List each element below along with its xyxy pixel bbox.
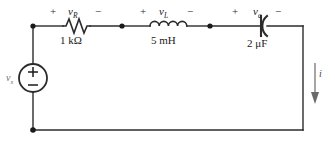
node-dot-top-left xyxy=(30,23,35,28)
resistor-voltage-label: vR xyxy=(68,6,77,20)
capacitor-value: 2 μF xyxy=(247,38,267,49)
inductor-value: 5 mH xyxy=(151,35,176,46)
current-label: i xyxy=(319,69,322,79)
inductor-symbol xyxy=(150,21,187,26)
inductor-voltage-label: vL xyxy=(159,6,168,20)
resistor-value: 1 kΩ xyxy=(60,35,82,46)
capacitor-plate-right xyxy=(262,16,267,36)
inductor-polarity-plus: + xyxy=(140,6,146,17)
source-plus-icon xyxy=(28,67,38,77)
node-dot-r-l xyxy=(119,23,124,28)
current-arrow-icon xyxy=(311,63,319,104)
resistor-symbol xyxy=(63,19,90,33)
node-dot-bottom-left xyxy=(30,127,36,133)
node-dot-l-c xyxy=(207,23,212,28)
resistor-polarity-plus: + xyxy=(50,6,56,17)
capacitor-voltage-label: vc xyxy=(253,6,261,20)
inductor-polarity-minus: − xyxy=(187,6,193,17)
voltage-source-label: vs xyxy=(6,73,13,86)
circuit-diagram: + vR − 1 kΩ + vL − 5 mH + vc − 2 μF vs i xyxy=(0,0,335,142)
circuit-schematic-canvas xyxy=(0,0,335,142)
capacitor-polarity-minus: − xyxy=(275,6,281,17)
capacitor-polarity-plus: + xyxy=(232,6,238,17)
resistor-polarity-minus: − xyxy=(95,6,101,17)
